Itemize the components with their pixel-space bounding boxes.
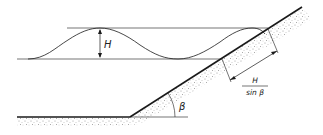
wave-height-label: H <box>104 39 112 50</box>
fraction-denominator: sin β <box>246 88 264 97</box>
sediment-fill <box>17 8 310 126</box>
fraction-numerator: H <box>252 76 258 85</box>
slope-line <box>130 7 302 117</box>
arrowhead-up-icon <box>98 29 102 34</box>
wave-slope-diagram: β H H sin β <box>0 0 323 135</box>
wave-profile <box>28 28 265 59</box>
arrowhead-down-icon <box>98 53 102 58</box>
slope-angle-label: β <box>178 101 186 112</box>
